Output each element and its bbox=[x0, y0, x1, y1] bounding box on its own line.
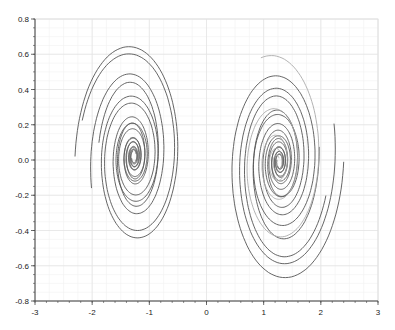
y-tick-label: 0.4 bbox=[18, 86, 30, 95]
x-tick-label: 1 bbox=[261, 308, 266, 317]
x-tick-label: 2 bbox=[319, 308, 324, 317]
y-tick-label: -0.8 bbox=[15, 297, 29, 306]
y-tick-label: 0.0 bbox=[18, 156, 30, 165]
phase-portrait-chart: 0.80.60.40.20.0-0.2-0.4-0.6-0.8 -3-2-101… bbox=[0, 0, 395, 330]
x-tick-label: -3 bbox=[31, 308, 39, 317]
trajectory-curves bbox=[75, 47, 344, 278]
x-tick-label: 3 bbox=[376, 308, 381, 317]
y-tick-label: 0.2 bbox=[18, 121, 30, 130]
y-tick-label: 0.8 bbox=[18, 15, 30, 24]
axes: 0.80.60.40.20.0-0.2-0.4-0.6-0.8 -3-2-101… bbox=[15, 15, 381, 317]
major-grid bbox=[35, 19, 378, 301]
y-axis: 0.80.60.40.20.0-0.2-0.4-0.6-0.8 bbox=[15, 15, 35, 306]
y-tick-label: 0.6 bbox=[18, 50, 30, 59]
x-tick-label: -1 bbox=[146, 308, 154, 317]
x-axis: -3-2-10123 bbox=[31, 301, 380, 317]
x-tick-label: -2 bbox=[89, 308, 97, 317]
x-tick-label: 0 bbox=[204, 308, 209, 317]
y-tick-label: -0.4 bbox=[15, 227, 29, 236]
y-tick-label: -0.6 bbox=[15, 262, 29, 271]
y-tick-label: -0.2 bbox=[15, 191, 29, 200]
